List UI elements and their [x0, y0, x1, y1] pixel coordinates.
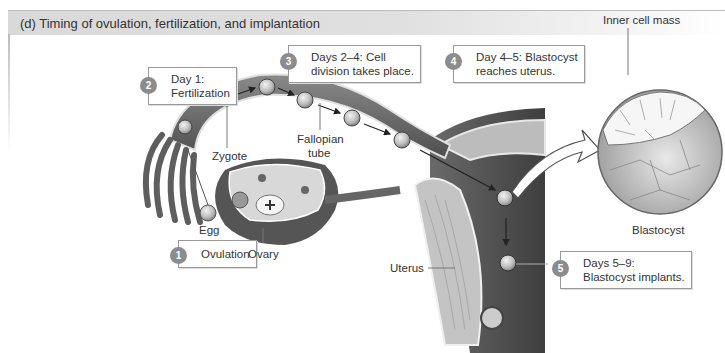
step-2-callout: 2 Day 1: Fertilization — [148, 67, 237, 105]
step-text: Day 1: — [171, 72, 230, 86]
egg-label: Egg — [199, 223, 219, 237]
step-1-callout: 1 Ovulation — [178, 240, 257, 268]
step-text: Day 4–5: Blastocyst — [476, 50, 578, 64]
fallopian-tube-label-line1: Fallopian — [297, 132, 344, 146]
step-text: Ovulation — [201, 247, 250, 261]
fallopian-tube-label-line2: tube — [308, 146, 330, 160]
ovary-label: Ovary — [248, 247, 279, 261]
step-3-callout: 3 Days 2–4: Cell division takes place. — [288, 45, 421, 83]
step-text: Fertilization — [171, 86, 230, 100]
step-text: Days 2–4: Cell — [311, 50, 414, 64]
step-text: Blastocyst implants. — [583, 270, 685, 284]
step-number-badge: 5 — [552, 260, 569, 277]
step-number-badge: 4 — [445, 53, 462, 70]
step-number-badge: 2 — [140, 77, 157, 94]
step-text: division takes place. — [311, 64, 414, 78]
inner-cell-mass-label: Inner cell mass — [603, 13, 680, 27]
blastocyst-illustration — [598, 90, 722, 214]
step-number-badge: 1 — [170, 247, 187, 264]
step-number-badge: 3 — [280, 53, 297, 70]
step-text: Days 5–9: — [583, 256, 685, 270]
blastocyst-label: Blastocyst — [632, 223, 684, 237]
uterus-label: Uterus — [390, 261, 424, 275]
step-4-callout: 4 Day 4–5: Blastocyst reaches uterus. — [453, 45, 585, 83]
step-5-callout: 5 Days 5–9: Blastocyst implants. — [560, 251, 692, 289]
step-text: reaches uterus. — [476, 64, 578, 78]
egg-cell-icon — [200, 205, 216, 221]
ovary-illustration — [215, 159, 400, 245]
zygote-label: Zygote — [212, 149, 247, 163]
